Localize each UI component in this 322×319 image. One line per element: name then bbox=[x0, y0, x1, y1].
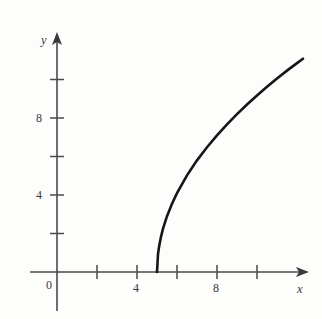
y-axis-label: y bbox=[41, 34, 47, 47]
x-tick-label-4: 4 bbox=[133, 282, 139, 294]
square-root-curve bbox=[157, 59, 303, 272]
y-tick-label-8: 8 bbox=[36, 112, 42, 124]
origin-label: 0 bbox=[46, 279, 52, 291]
y-tick-label-4: 4 bbox=[36, 189, 42, 201]
x-tick-label-8: 8 bbox=[213, 282, 219, 294]
function-graph-figure: 0 4 8 4 8 x y bbox=[0, 0, 322, 319]
x-axis-label: x bbox=[297, 283, 303, 296]
plot-canvas bbox=[0, 0, 322, 319]
